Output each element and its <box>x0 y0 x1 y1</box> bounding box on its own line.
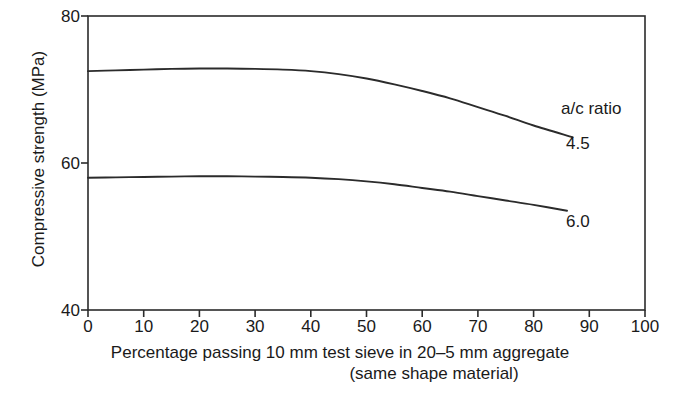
series-label-ac-6-0: 6.0 <box>566 213 590 230</box>
figure-caption <box>2 391 678 410</box>
legend-title: a/c ratio <box>561 100 621 117</box>
series-line-ac-4-5 <box>88 69 573 138</box>
x-axis-title-line1: Percentage passing 10 mm test sieve in 2… <box>60 342 620 363</box>
series-label-ac-4-5: 4.5 <box>566 135 590 152</box>
plot-frame <box>88 16 645 310</box>
x-axis-title-line2: (same shape material) <box>60 363 680 384</box>
x-axis-title: Percentage passing 10 mm test sieve in 2… <box>60 342 680 384</box>
chart-figure: Compressive strength (MPa) 80 60 40 0 10… <box>0 0 680 410</box>
x-axis-ticks <box>88 310 645 317</box>
series-line-ac-6-0 <box>88 176 567 211</box>
y-axis-ticks <box>81 16 88 310</box>
